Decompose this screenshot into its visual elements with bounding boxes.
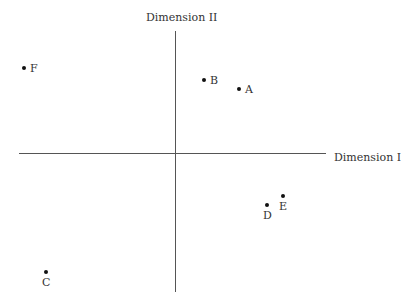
data-point-label: B [210, 75, 218, 86]
data-point-b [202, 78, 206, 82]
data-point-c [44, 270, 48, 274]
data-point-label: E [279, 201, 287, 212]
data-point-d [265, 203, 269, 207]
y-axis-label: Dimension II [146, 11, 217, 24]
data-point-label: D [263, 210, 272, 221]
x-axis-line [19, 153, 326, 154]
data-point-e [281, 194, 285, 198]
data-point-label: A [245, 84, 253, 95]
y-axis-line [175, 31, 176, 292]
data-point-label: F [30, 63, 38, 74]
data-point-label: C [42, 277, 50, 288]
data-point-a [237, 87, 241, 91]
cutoff-caption [200, 0, 380, 3]
x-axis-label: Dimension I [334, 151, 401, 164]
data-point-f [22, 66, 26, 70]
